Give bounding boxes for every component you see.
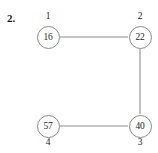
node-value-3: 40 [135,121,144,131]
node-label-3: 3 [128,137,152,148]
graph-node-2[interactable]: 22 [129,26,152,49]
graph-node-4[interactable]: 57 [37,115,60,138]
node-value-1: 16 [43,32,52,42]
node-label-1: 1 [36,11,60,22]
node-value-4: 57 [43,121,52,131]
graph-node-1[interactable]: 16 [37,26,60,49]
node-label-4: 4 [36,137,60,148]
graph-node-3[interactable]: 40 [129,115,152,138]
graph-figure: 2. 1 16 2 22 40 3 57 4 [0,0,158,153]
node-value-2: 22 [135,32,144,42]
node-label-2: 2 [128,11,152,22]
